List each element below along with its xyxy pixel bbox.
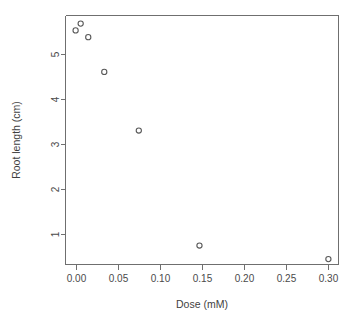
y-tick-label: 1 bbox=[50, 231, 61, 237]
plot-box-frame bbox=[66, 16, 339, 265]
x-axis-title: Dose (mM) bbox=[176, 298, 228, 310]
data-point bbox=[102, 69, 107, 74]
y-tick-label: 4 bbox=[50, 96, 61, 102]
data-point bbox=[136, 128, 141, 133]
data-point bbox=[326, 256, 331, 261]
y-axis-ticks: 12345 bbox=[50, 51, 66, 237]
scatter-plot-figure: 12345 0.000.050.100.150.200.250.30 Dose … bbox=[0, 0, 359, 328]
y-tick-label: 5 bbox=[50, 51, 61, 57]
data-point bbox=[73, 28, 78, 33]
x-tick-label: 0.10 bbox=[151, 273, 171, 284]
plot-canvas: 12345 0.000.050.100.150.200.250.30 Dose … bbox=[0, 0, 359, 328]
data-point-layer bbox=[73, 21, 331, 262]
data-point bbox=[86, 35, 91, 40]
x-tick-label: 0.05 bbox=[109, 273, 129, 284]
x-tick-label: 0.20 bbox=[235, 273, 255, 284]
x-tick-label: 0.00 bbox=[67, 273, 87, 284]
x-axis-ticks: 0.000.050.100.150.200.250.30 bbox=[67, 265, 339, 284]
data-point bbox=[78, 21, 83, 26]
y-tick-label: 2 bbox=[50, 186, 61, 192]
x-tick-label: 0.15 bbox=[193, 273, 213, 284]
y-axis-title: Root length (cm) bbox=[10, 101, 22, 179]
x-tick-label: 0.25 bbox=[277, 273, 297, 284]
data-point bbox=[197, 243, 202, 248]
x-tick-label: 0.30 bbox=[319, 273, 339, 284]
y-tick-label: 3 bbox=[50, 141, 61, 147]
